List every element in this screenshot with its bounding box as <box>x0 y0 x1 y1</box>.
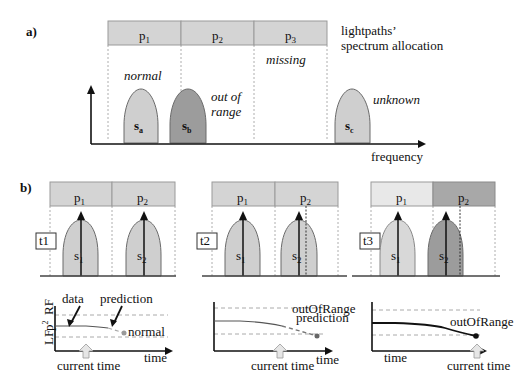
carrier-arrow-icon <box>239 211 247 220</box>
annotation-unknown: unknown <box>373 92 420 107</box>
status-outofrange-label: outOfRange <box>450 314 514 329</box>
chart-t3: outOfRange time current time <box>372 302 514 373</box>
carrier-arrow-icon <box>442 211 450 220</box>
snapshot-t3: p1 p2 t3 s1 s2 <box>352 182 514 373</box>
current-value-point <box>473 333 479 339</box>
current-time-label: current time <box>57 358 120 373</box>
data-label: data <box>62 291 84 306</box>
diagram-canvas: a) p1 p2 p3 lightpaths’ spectrum allocat… <box>0 0 527 386</box>
rf-label: RF <box>41 299 56 315</box>
annotation-range: range <box>211 104 242 119</box>
status-normal-label: normal <box>128 324 165 339</box>
carrier-arrow-icon <box>394 211 402 220</box>
prediction-line <box>108 328 124 333</box>
current-time-marker-icon <box>79 344 93 358</box>
frequency-axis-label: frequency <box>371 149 423 164</box>
annotation-missing: missing <box>266 52 306 67</box>
power-axis-arrow-icon <box>87 85 95 94</box>
y-axis-labels: LF p2 RF <box>41 299 56 345</box>
carrier-arrow-icon <box>295 211 303 220</box>
snapshot-t1: p1 p2 t1 s1 s2 <box>36 182 176 373</box>
caption-line2: spectrum allocation <box>341 38 444 53</box>
prediction-point <box>122 331 127 336</box>
lf-label: LF <box>41 330 56 345</box>
time-axis-label: time <box>144 350 167 365</box>
current-time-label: current time <box>447 358 510 373</box>
prediction-point <box>315 334 320 339</box>
chart-t1: normal data prediction LF p2 RF current … <box>41 291 173 373</box>
time-axis-label: time <box>384 350 407 365</box>
carrier-arrow-icon <box>140 211 148 220</box>
panel-a: a) p1 p2 p3 lightpaths’ spectrum allocat… <box>26 21 444 164</box>
current-time-label: current time <box>251 358 314 373</box>
data-line <box>214 321 282 326</box>
panel-a-channel-bar: p1 p2 p3 <box>108 21 327 45</box>
time-tag-t2-label: t2 <box>200 233 210 248</box>
annotation-normal: normal <box>124 68 162 83</box>
panel-b-label: b) <box>20 180 32 195</box>
snapshot-t2: p1 p2 t2 s1 s2 <box>197 182 356 373</box>
p2-label: p2 <box>41 321 56 332</box>
carrier-arrow-icon <box>77 211 85 220</box>
current-time-marker-icon <box>470 344 484 358</box>
time-tag-t3-label: t3 <box>363 233 373 248</box>
caption-line1: lightpaths’ <box>341 23 397 38</box>
chart-t2: outOfRange prediction current time time <box>214 301 356 373</box>
prediction-label: prediction <box>100 291 153 306</box>
panel-a-label: a) <box>26 24 37 39</box>
time-axis-label: time <box>316 352 339 367</box>
data-line <box>55 326 108 328</box>
current-time-marker-icon <box>273 344 287 358</box>
prediction-label: prediction <box>296 310 349 325</box>
annotation-out-of: out of <box>211 89 243 104</box>
frequency-axis-arrow-icon <box>418 140 426 148</box>
time-tag-t1-label: t1 <box>39 233 49 248</box>
panel-b: b) p1 p2 t1 s1 s2 <box>20 180 514 373</box>
